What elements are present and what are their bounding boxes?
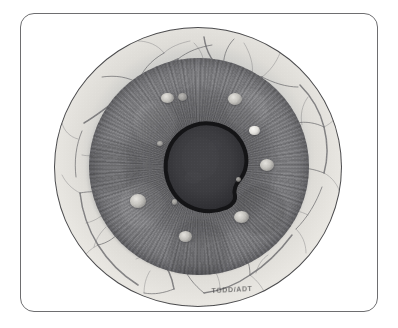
iris-nodule-superior-left-small: [178, 93, 187, 101]
iris-nodule-temporal-mid: [260, 159, 274, 171]
eye-globe: TODD/ADT: [54, 27, 342, 307]
iris-nodule-inferonasal-tiny: [172, 199, 178, 204]
pupil: [162, 121, 250, 212]
iris-nodule-nasal-inferior: [130, 194, 147, 207]
figure-root: TODD/ADT: [0, 0, 398, 328]
iris: [89, 58, 309, 275]
iris-nodule-inferotemporal-tiny: [236, 177, 241, 182]
